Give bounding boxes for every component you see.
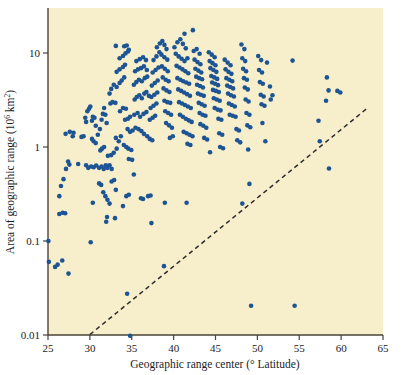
data-point bbox=[114, 188, 119, 193]
data-point bbox=[194, 47, 199, 52]
data-point bbox=[57, 194, 62, 199]
data-point bbox=[105, 215, 110, 220]
data-point bbox=[201, 94, 206, 99]
data-point bbox=[246, 99, 251, 104]
x-tick-label: 45 bbox=[210, 342, 222, 354]
data-point bbox=[191, 28, 196, 33]
y-tick-label: 0.01 bbox=[21, 329, 40, 341]
x-tick-label: 65 bbox=[378, 342, 390, 354]
data-point bbox=[232, 94, 237, 99]
data-point bbox=[178, 37, 183, 42]
data-point bbox=[188, 143, 193, 148]
data-point bbox=[268, 97, 273, 102]
y-tick-label: 1 bbox=[35, 141, 41, 153]
data-point bbox=[129, 148, 134, 153]
data-point bbox=[261, 94, 266, 99]
data-point bbox=[170, 134, 175, 139]
data-point bbox=[154, 54, 159, 59]
data-point bbox=[231, 86, 236, 91]
data-point bbox=[229, 72, 234, 77]
data-point bbox=[103, 113, 108, 118]
data-point bbox=[203, 113, 208, 118]
data-point bbox=[242, 47, 247, 52]
data-point bbox=[55, 262, 60, 267]
data-point bbox=[270, 93, 275, 98]
data-point bbox=[99, 117, 104, 122]
x-tick-label: 50 bbox=[252, 342, 264, 354]
data-point bbox=[99, 183, 104, 188]
x-tick-label: 40 bbox=[168, 342, 180, 354]
data-point bbox=[93, 124, 98, 129]
data-point bbox=[249, 303, 254, 308]
data-point bbox=[155, 78, 160, 83]
data-point bbox=[113, 216, 118, 221]
data-point bbox=[128, 334, 133, 339]
data-point bbox=[125, 291, 130, 296]
data-point bbox=[217, 99, 222, 104]
data-point bbox=[104, 121, 109, 126]
data-point bbox=[123, 62, 128, 67]
data-point bbox=[202, 103, 207, 108]
x-axis-title: Geographic range center (° Latitude) bbox=[130, 358, 300, 371]
data-point bbox=[198, 62, 203, 67]
data-point bbox=[259, 58, 264, 63]
data-point bbox=[98, 127, 103, 132]
data-point bbox=[151, 58, 156, 63]
data-point bbox=[63, 132, 68, 137]
data-point bbox=[238, 140, 243, 145]
data-point bbox=[163, 200, 168, 205]
data-point bbox=[218, 108, 223, 113]
data-point bbox=[144, 110, 149, 115]
data-point bbox=[127, 48, 132, 53]
data-point bbox=[216, 83, 221, 88]
data-point bbox=[239, 42, 244, 47]
data-point bbox=[215, 77, 220, 82]
data-point bbox=[167, 90, 172, 95]
data-point bbox=[124, 106, 129, 111]
data-point bbox=[186, 71, 191, 76]
data-point bbox=[184, 200, 189, 205]
data-point bbox=[107, 201, 112, 206]
data-point bbox=[71, 130, 76, 135]
data-point bbox=[165, 69, 170, 74]
x-tick-label: 35 bbox=[126, 342, 138, 354]
data-point bbox=[183, 46, 188, 51]
data-point bbox=[245, 87, 250, 92]
data-point bbox=[327, 166, 332, 171]
data-point bbox=[59, 184, 64, 189]
data-point bbox=[189, 120, 194, 125]
data-point bbox=[60, 258, 65, 263]
data-point bbox=[114, 146, 119, 151]
data-point bbox=[149, 221, 154, 226]
data-point bbox=[109, 167, 114, 172]
data-point bbox=[96, 132, 101, 137]
data-point bbox=[88, 104, 93, 109]
data-point bbox=[141, 197, 146, 202]
data-point bbox=[92, 115, 97, 120]
data-point bbox=[165, 57, 170, 62]
data-point bbox=[325, 75, 330, 80]
data-point bbox=[232, 104, 237, 109]
chart-canvas: 1010.10.01 253035404550556065 Geographic… bbox=[0, 0, 404, 375]
data-point bbox=[164, 47, 169, 52]
data-point bbox=[116, 139, 121, 144]
data-point bbox=[212, 55, 217, 60]
data-point bbox=[91, 200, 96, 205]
data-point bbox=[188, 94, 193, 99]
data-point bbox=[61, 177, 66, 182]
data-point bbox=[187, 82, 192, 87]
data-point bbox=[246, 147, 251, 152]
data-point bbox=[127, 193, 132, 198]
data-point bbox=[213, 63, 218, 68]
data-point bbox=[84, 120, 89, 125]
data-point bbox=[261, 82, 266, 87]
y-axis-ticks: 1010.10.01 bbox=[21, 47, 48, 341]
data-point bbox=[144, 58, 149, 63]
data-point bbox=[162, 43, 167, 48]
data-point bbox=[199, 70, 204, 75]
x-tick-label: 60 bbox=[336, 342, 348, 354]
data-point bbox=[166, 79, 171, 84]
data-point bbox=[172, 45, 177, 50]
data-point bbox=[185, 56, 190, 61]
data-point bbox=[244, 69, 249, 74]
